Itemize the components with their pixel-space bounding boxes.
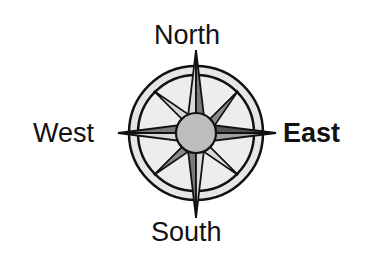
label-west: West [33, 120, 94, 147]
center-hub [176, 113, 216, 153]
label-east: East [283, 120, 340, 147]
label-north: North [154, 22, 220, 49]
label-south: South [151, 219, 222, 246]
